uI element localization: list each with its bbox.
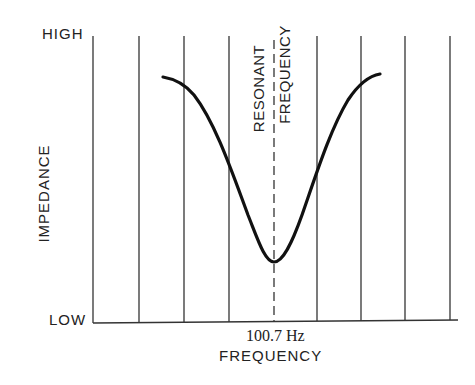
annotation-frequency: FREQUENCY (276, 20, 293, 130)
y-tick-high: HIGH (42, 25, 84, 42)
grid-lines (93, 36, 450, 323)
y-tick-low: LOW (49, 311, 86, 328)
x-axis-line (93, 320, 458, 323)
x-marker-value: 100.7 Hz (246, 327, 305, 345)
annotation-resonant: RESONANT (250, 39, 267, 139)
x-axis-label: FREQUENCY (219, 347, 322, 364)
impedance-curve (163, 74, 380, 262)
y-axis-label: IMPEDANCE (35, 139, 52, 249)
